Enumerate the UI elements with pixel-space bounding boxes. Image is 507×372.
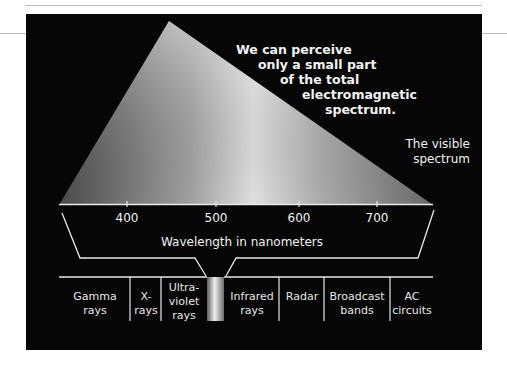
visible-spectrum-label-1: The visible (406, 137, 471, 152)
headline-line-5: spectrum. (325, 102, 396, 117)
band-gamma-rays: Gamma rays (73, 290, 116, 318)
tick-label-700: 700 (366, 211, 389, 226)
band-radar: Radar (286, 290, 318, 304)
band-ac-circuits: AC circuits (392, 290, 432, 318)
tick-label-400: 400 (116, 211, 139, 226)
band-broadcast-bands: Broadcast bands (329, 290, 384, 318)
band-infrared-rays: Infrared rays (230, 290, 273, 318)
headline-line-3: of the total (280, 72, 359, 87)
visible-spectrum-label-2: spectrum (413, 152, 470, 167)
band-ultraviolet-rays: Ultra- violet rays (169, 281, 200, 323)
headline-line-4: electromagnetic (302, 87, 417, 102)
axis-title: Wavelength in nanometers (161, 235, 323, 250)
headline-line-2: only a small part (258, 57, 376, 72)
tick-label-500: 500 (205, 211, 228, 226)
tick-label-600: 600 (288, 211, 311, 226)
band-x-rays: X- rays (134, 290, 158, 318)
headline-line-1: We can perceive (236, 42, 352, 57)
visible-band-bar (207, 277, 224, 321)
